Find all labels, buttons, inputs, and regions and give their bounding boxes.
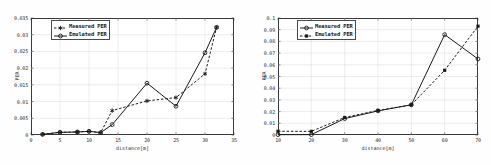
y-tick-label: 0.09 [245,27,275,33]
x-tick-label: 40 [375,137,381,143]
legend-item: Emulated PER [53,30,107,38]
y-tick-label: 0.005 [0,115,28,121]
x-tick-label: 30 [342,137,348,143]
x-axis-label: distance[m] [361,145,394,151]
y-tick-label: 0.03 [245,97,275,103]
chart-panel-left: 00.0050.010.0150.020.0250.030.0350510152… [0,0,245,165]
x-tick-label: 70 [475,137,481,143]
x-tick-label: 60 [442,137,448,143]
legend-marker-circle-icon [53,25,68,44]
x-tick-label: 20 [144,137,150,143]
y-tick-label: 0.04 [245,85,275,91]
y-tick-label: 0 [0,132,28,138]
x-tick-label: 50 [409,137,415,143]
y-tick-label: 0 [245,132,275,138]
axis-labels-right: 00.010.020.030.040.050.060.070.080.090.1… [245,0,491,165]
x-tick-label: 0 [30,137,33,143]
legend-label: Emulated PER [315,31,353,37]
x-tick-label: 30 [202,137,208,143]
legend-label: Emulated PER [69,31,107,37]
y-axis-label: PER [14,64,20,88]
y-tick-label: 0.06 [245,62,275,68]
y-tick-label: 0.05 [245,74,275,80]
axis-labels-left: 00.0050.010.0150.020.0250.030.0350510152… [0,0,245,165]
x-tick-label: 10 [275,137,281,143]
legend-marker-square-icon [299,25,314,44]
x-tick-label: 25 [173,137,179,143]
y-tick-label: 0.03 [0,32,28,38]
y-tick-label: 0.035 [0,15,28,21]
y-tick-label: 0.07 [245,50,275,56]
y-tick-label: 0.02 [245,109,275,115]
figure-container: 00.0050.010.0150.020.0250.030.0350510152… [0,0,491,165]
x-tick-label: 15 [115,137,121,143]
y-tick-label: 0.025 [0,48,28,54]
x-axis-label: distance[m] [116,145,149,151]
legend-label: Measured PER [69,23,107,29]
y-tick-label: 0.08 [245,38,275,44]
y-axis-label: PER [261,64,267,88]
x-tick-label: 10 [86,137,92,143]
x-tick-label: 35 [231,137,237,143]
legend-item: Emulated PER [299,30,353,38]
legend-left: Measured PEREmulated PER [51,20,110,40]
x-tick-label: 5 [59,137,62,143]
chart-panel-right: 00.010.020.030.040.050.060.070.080.090.1… [245,0,491,165]
y-tick-label: 0.1 [245,15,275,21]
legend-right: Measured PEREmulated PER [297,20,356,40]
y-tick-label: 0.01 [245,120,275,126]
x-tick-label: 20 [309,137,315,143]
y-tick-label: 0.01 [0,99,28,105]
legend-label: Measured PER [315,23,353,29]
